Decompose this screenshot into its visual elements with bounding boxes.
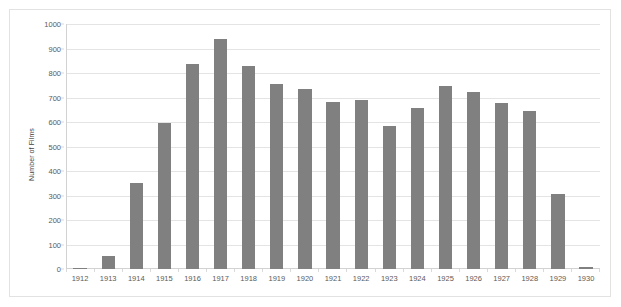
bar-slot	[235, 24, 263, 269]
bar-slot	[66, 24, 94, 269]
x-axis-tick-label: 1926	[460, 272, 488, 288]
bar[interactable]	[158, 123, 171, 270]
x-axis-tick-label: 1923	[375, 272, 403, 288]
bar-slot	[403, 24, 431, 269]
bar[interactable]	[551, 194, 564, 269]
y-axis-tick-mark	[61, 146, 64, 147]
x-axis-tick-label: 1918	[235, 272, 263, 288]
bar-slot	[207, 24, 235, 269]
bar-slot	[544, 24, 572, 269]
x-axis-tick-label: 1914	[122, 272, 150, 288]
y-axis-tick-label: 700	[48, 93, 61, 102]
bar[interactable]	[186, 64, 199, 269]
y-axis-tick-label: 100	[48, 240, 61, 249]
x-axis-tick-label: 1927	[488, 272, 516, 288]
y-axis-tick-mark	[61, 97, 64, 98]
bar[interactable]	[102, 256, 115, 269]
x-axis-tick-label: 1930	[572, 272, 600, 288]
y-axis-tick-mark	[61, 269, 64, 270]
bar-slot	[263, 24, 291, 269]
x-axis-tick-label: 1916	[178, 272, 206, 288]
bar-slot	[347, 24, 375, 269]
y-axis-tick-label: 400	[48, 167, 61, 176]
y-axis-tick-mark	[61, 195, 64, 196]
bar[interactable]	[439, 86, 452, 269]
bar[interactable]	[495, 103, 508, 269]
x-axis-tick-label: 1921	[319, 272, 347, 288]
x-axis-tick-label: 1925	[431, 272, 459, 288]
bar[interactable]	[383, 126, 396, 269]
bar-slot	[488, 24, 516, 269]
x-axis-tick-label: 1928	[516, 272, 544, 288]
y-axis-tick-mark	[61, 244, 64, 245]
y-axis-tick-label: 200	[48, 216, 61, 225]
bar-slot	[319, 24, 347, 269]
bar-slot	[150, 24, 178, 269]
x-axis-tick-label: 1912	[66, 272, 94, 288]
bar-slot	[291, 24, 319, 269]
y-axis-tick-mark	[61, 24, 64, 25]
x-axis-tick-label: 1917	[207, 272, 235, 288]
bar[interactable]	[467, 92, 480, 269]
bar[interactable]	[411, 108, 424, 269]
y-axis-tick-mark	[61, 73, 64, 74]
bar-slot	[516, 24, 544, 269]
y-axis-tick-label: 900	[48, 44, 61, 53]
bar[interactable]	[214, 39, 227, 269]
bar[interactable]	[270, 84, 283, 269]
x-axis-tick-label: 1919	[263, 272, 291, 288]
x-axis-tick-label: 1929	[544, 272, 572, 288]
bar-slot	[122, 24, 150, 269]
x-axis-tick-label: 1913	[94, 272, 122, 288]
y-axis-tick-label: 1000	[44, 20, 61, 29]
bar-slot	[431, 24, 459, 269]
x-axis-tick-label: 1922	[347, 272, 375, 288]
chart-container: Number of Films 100090080070060050040030…	[9, 9, 611, 297]
bar[interactable]	[242, 66, 255, 269]
y-axis-tick-mark	[61, 122, 64, 123]
x-axis-tick-labels: 1912191319141915191619171918191919201921…	[66, 272, 600, 288]
y-axis-tick-labels: 10009008007006005004003002001000	[36, 10, 64, 298]
bar[interactable]	[523, 111, 536, 269]
x-axis-tick-label: 1920	[291, 272, 319, 288]
x-axis-tick-label: 1915	[150, 272, 178, 288]
y-axis-tick-label: 300	[48, 191, 61, 200]
x-axis-tick-label: 1924	[403, 272, 431, 288]
plot-area	[66, 24, 600, 269]
bar[interactable]	[298, 89, 311, 269]
bar-slot	[375, 24, 403, 269]
y-axis-tick-mark	[61, 220, 64, 221]
bar-slot	[94, 24, 122, 269]
y-axis-title-label: Number of Films	[28, 128, 35, 181]
y-axis-tick-mark	[61, 48, 64, 49]
bar[interactable]	[355, 100, 368, 269]
bar[interactable]	[130, 183, 143, 269]
y-axis-tick-label: 500	[48, 142, 61, 151]
bar-slot	[460, 24, 488, 269]
y-axis-tick-mark	[61, 171, 64, 172]
bar[interactable]	[326, 102, 339, 269]
bar-slot	[572, 24, 600, 269]
y-axis-tick-label: 600	[48, 118, 61, 127]
y-axis-tick-label: 800	[48, 69, 61, 78]
bar-series	[66, 24, 600, 269]
bar-slot	[178, 24, 206, 269]
